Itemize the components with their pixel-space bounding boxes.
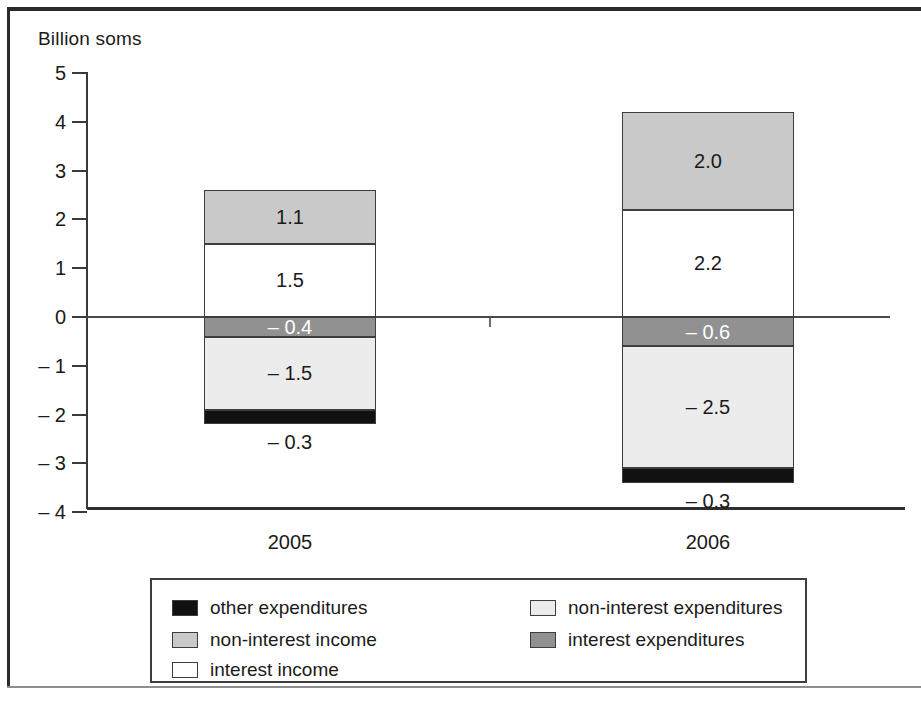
x-axis-label-2005: 2005	[230, 532, 350, 552]
y-tick-label: – 2	[16, 405, 66, 425]
bar-segment: – 1.5	[204, 337, 376, 410]
y-tick-label: 4	[16, 112, 66, 132]
bar-segment: 1.1	[204, 190, 376, 244]
y-tick-neg4	[72, 511, 87, 513]
bar-segment: – 0.6	[622, 317, 794, 346]
legend: other expendituresnon-interest expenditu…	[150, 578, 807, 683]
y-tick-4	[72, 121, 87, 123]
y-tick-label-text: 2	[20, 209, 66, 229]
legend-item: non-interest expenditures	[530, 598, 782, 617]
y-tick-neg1	[72, 365, 87, 367]
y-tick-label: 2	[16, 209, 66, 229]
legend-swatch-icon	[172, 632, 198, 648]
y-tick-label-text: – 2	[20, 405, 66, 425]
bar-segment-label: 1.1	[276, 207, 304, 227]
bar-segment-label: 2.2	[694, 253, 722, 273]
legend-item: non-interest income	[172, 630, 377, 649]
bar-segment-label: – 0.6	[686, 322, 730, 342]
bar-segment	[622, 468, 794, 483]
legend-swatch-icon	[530, 632, 556, 648]
bar-segment-label: – 0.4	[268, 317, 312, 337]
legend-swatch-icon	[172, 662, 198, 678]
y-tick-label: – 1	[16, 356, 66, 376]
x-axis-label-2006: 2006	[648, 532, 768, 552]
bar-segment-label: – 1.5	[268, 363, 312, 383]
y-tick-label: 3	[16, 161, 66, 181]
y-tick-3	[72, 170, 87, 172]
y-tick-label: 5	[16, 63, 66, 83]
y-axis-line	[86, 72, 88, 509]
bar-segment-label: – 2.5	[686, 397, 730, 417]
bar-segment: 1.5	[204, 244, 376, 317]
legend-item-label: interest expenditures	[568, 630, 744, 649]
y-tick-label-text: 3	[20, 161, 66, 181]
y-tick-label: 1	[16, 258, 66, 278]
y-tick-label-text: – 4	[20, 502, 66, 522]
y-tick-label-text: 0	[20, 307, 66, 327]
legend-item-label: non-interest income	[210, 630, 377, 649]
y-tick-2	[72, 218, 87, 220]
y-tick-label-text: 5	[20, 63, 66, 83]
bar-segment-label: 2.0	[694, 151, 722, 171]
zero-midpoint-tick	[489, 318, 491, 327]
y-tick-1	[72, 267, 87, 269]
bar-segment	[204, 410, 376, 425]
legend-swatch-icon	[172, 600, 198, 616]
bar-segment-label: 1.5	[276, 270, 304, 290]
y-tick-0	[72, 316, 87, 318]
legend-item: interest expenditures	[530, 630, 744, 649]
y-tick-label-text: 4	[20, 112, 66, 132]
y-tick-label: – 3	[16, 453, 66, 473]
legend-swatch-icon	[530, 600, 556, 616]
y-tick-neg3	[72, 462, 87, 464]
legend-item-label: non-interest expenditures	[568, 598, 782, 617]
y-tick-label-text: 1	[20, 258, 66, 278]
legend-item: other expenditures	[172, 598, 367, 617]
bar-segment: – 0.4	[204, 317, 376, 337]
bar-segment: 2.2	[622, 210, 794, 317]
bar-segment-label: – 0.3	[622, 491, 794, 511]
y-tick-neg2	[72, 414, 87, 416]
bar-segment: 2.0	[622, 112, 794, 210]
legend-item: interest income	[172, 660, 339, 679]
chart-figure: Billion soms 543210– 1– 2– 3– 4 1.51.1– …	[0, 0, 921, 710]
y-tick-label-text: – 3	[20, 453, 66, 473]
y-tick-label-text: – 1	[20, 356, 66, 376]
y-tick-label: – 4	[16, 502, 66, 522]
bar-segment-label: – 0.3	[204, 432, 376, 452]
legend-item-label: interest income	[210, 660, 339, 679]
y-tick-5	[72, 72, 87, 74]
legend-item-label: other expenditures	[210, 598, 367, 617]
bar-segment: – 2.5	[622, 346, 794, 468]
y-tick-label: 0	[16, 307, 66, 327]
